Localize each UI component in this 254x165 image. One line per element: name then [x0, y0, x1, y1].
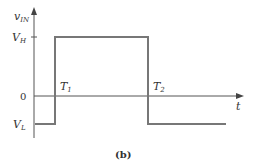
t2-label: T2: [153, 80, 165, 94]
vh-label: VH: [12, 31, 27, 45]
y-axis-label: vIN: [14, 10, 30, 24]
figure-caption: (b): [115, 149, 131, 160]
y-axis-arrow-icon: [31, 7, 37, 15]
vl-label: VL: [13, 118, 26, 132]
pulse-diagram: vIN VH 0 VL T1 T2 t (b): [0, 0, 254, 165]
zero-label: 0: [20, 91, 26, 102]
x-axis-label: t: [236, 100, 241, 113]
t1-label: T1: [60, 80, 72, 94]
x-axis-arrow-icon: [236, 93, 244, 99]
